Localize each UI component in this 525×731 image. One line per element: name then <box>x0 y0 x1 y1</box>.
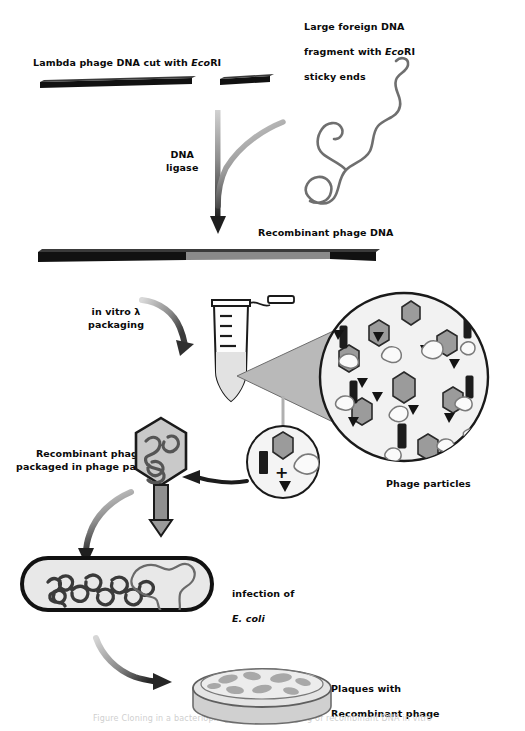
figure-canvas: Lambda phage DNA cut with EcoRI Large fo… <box>0 0 525 731</box>
lambda-left-arm <box>40 76 196 88</box>
packaging-arrow <box>142 300 194 356</box>
magnified-phage-circle <box>320 293 488 483</box>
lambda-right-arm <box>220 74 274 85</box>
plus-sign: + <box>275 463 288 482</box>
diagram-graphics: + <box>0 0 525 731</box>
mixture-circle: + <box>247 426 319 498</box>
phage-to-ecoli-arrow <box>78 492 131 566</box>
mix-to-phage-arrow <box>182 470 247 484</box>
ecoli-to-dish-arrow <box>96 638 172 690</box>
mix-phage-head <box>273 432 293 459</box>
ecoli-cell <box>22 558 212 616</box>
foreign-dna-strand <box>306 58 408 203</box>
mix-bar <box>259 451 268 474</box>
ligase-arrows <box>210 110 283 234</box>
recombinant-phage-particle <box>136 418 186 536</box>
petri-dish <box>193 669 331 724</box>
recombinant-dna-bar <box>38 249 380 262</box>
